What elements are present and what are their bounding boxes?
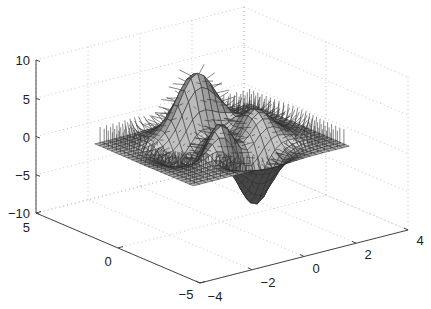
z-tick <box>36 60 40 62</box>
z-tick-label: −5 <box>15 168 30 183</box>
x-tick-label: 4 <box>416 233 423 248</box>
surface-normal-arrow <box>315 117 316 134</box>
z-tick <box>36 137 40 139</box>
surface-normal-arrow <box>278 101 279 118</box>
grid-line <box>118 195 326 248</box>
x-tick-label: −2 <box>261 275 276 290</box>
grid-line <box>88 200 252 270</box>
surface-plot: 10 5 0 −5 −10 5 0 −5 −4 −2 0 2 4 <box>0 0 431 309</box>
z-tick-label: −10 <box>8 206 30 221</box>
surface-normal-arrow <box>158 107 171 110</box>
x-tick-label: 2 <box>364 247 371 262</box>
y-tick-label: 0 <box>104 254 111 269</box>
z-tick-label: 5 <box>23 92 30 107</box>
z-tick-label: 0 <box>23 130 30 145</box>
x-tick <box>404 228 408 230</box>
y-tick-label: 5 <box>23 220 30 235</box>
surface-normal-arrow <box>169 87 182 90</box>
z-tick <box>36 98 40 100</box>
grid-line <box>140 187 304 257</box>
x-tick <box>352 241 356 243</box>
z-tick-label: 10 <box>16 53 30 68</box>
y-tick-label: −5 <box>179 287 194 302</box>
surface-normal-arrow <box>179 70 192 76</box>
surface-normal-arrow <box>199 64 205 74</box>
x-tick <box>248 268 252 270</box>
x-tick <box>300 255 304 257</box>
x-tick-label: −4 <box>208 289 223 304</box>
z-tick <box>36 175 40 177</box>
surface-mesh <box>95 64 349 204</box>
x-tick-label: 0 <box>312 261 319 276</box>
